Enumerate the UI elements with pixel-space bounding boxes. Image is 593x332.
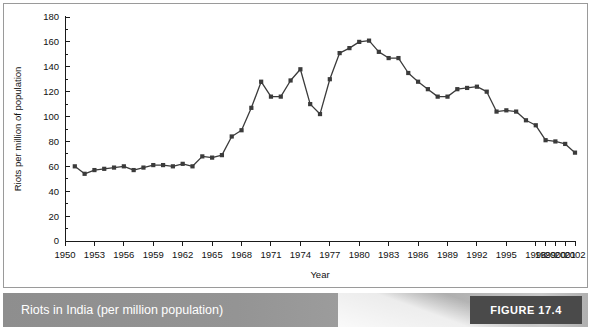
svg-text:2002: 2002 — [564, 249, 585, 260]
svg-text:1950: 1950 — [54, 249, 75, 260]
svg-text:Riots per million of populatio: Riots per million of population — [12, 67, 23, 192]
svg-text:1995: 1995 — [496, 249, 517, 260]
chart-panel: 0204060801001201401601801950195319561959… — [3, 3, 588, 288]
svg-text:1986: 1986 — [408, 249, 429, 260]
svg-text:80: 80 — [48, 136, 59, 147]
svg-text:1992: 1992 — [466, 249, 487, 260]
svg-text:1980: 1980 — [349, 249, 370, 260]
svg-text:100: 100 — [43, 111, 59, 122]
figure-caption-text: Riots in India (per million population) — [21, 293, 223, 327]
svg-text:140: 140 — [43, 61, 59, 72]
figure-container: 0204060801001201401601801950195319561959… — [0, 0, 593, 332]
svg-text:60: 60 — [48, 161, 59, 172]
svg-text:1962: 1962 — [172, 249, 193, 260]
figure-number-badge: FIGURE 17.4 — [470, 296, 582, 324]
svg-text:160: 160 — [43, 36, 59, 47]
svg-text:1974: 1974 — [290, 249, 311, 260]
svg-text:1953: 1953 — [84, 249, 105, 260]
svg-text:0: 0 — [54, 235, 59, 246]
svg-text:Year: Year — [310, 269, 329, 280]
svg-text:1971: 1971 — [260, 249, 281, 260]
svg-text:120: 120 — [43, 86, 59, 97]
svg-text:20: 20 — [48, 211, 59, 222]
svg-text:180: 180 — [43, 11, 59, 22]
svg-text:1965: 1965 — [202, 249, 223, 260]
svg-text:1959: 1959 — [143, 249, 164, 260]
svg-text:1956: 1956 — [113, 249, 134, 260]
svg-text:40: 40 — [48, 186, 59, 197]
svg-text:1983: 1983 — [378, 249, 399, 260]
figure-caption-bar: Riots in India (per million population) … — [3, 293, 588, 327]
svg-text:1989: 1989 — [437, 249, 458, 260]
svg-text:1977: 1977 — [319, 249, 340, 260]
riots-line-chart: 0204060801001201401601801950195319561959… — [4, 4, 587, 287]
svg-text:1968: 1968 — [231, 249, 252, 260]
